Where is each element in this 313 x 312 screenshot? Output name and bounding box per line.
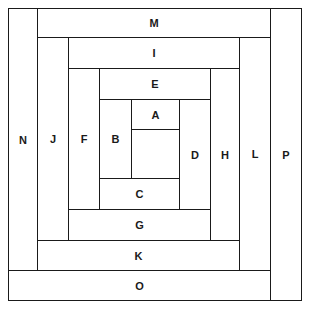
piece-e: E: [99, 68, 211, 100]
piece-f: F: [68, 68, 100, 210]
piece-h: H: [210, 68, 240, 241]
piece-label: K: [135, 250, 143, 262]
piece-g: G: [68, 209, 211, 241]
piece-label: J: [50, 133, 56, 145]
piece-a: A: [131, 99, 180, 130]
center-square: [131, 129, 180, 179]
piece-k: K: [37, 240, 240, 271]
piece-label: D: [191, 149, 199, 161]
piece-label: B: [112, 133, 120, 145]
piece-label: N: [19, 134, 27, 146]
piece-label: H: [221, 149, 229, 161]
piece-b: B: [99, 99, 132, 179]
piece-label: A: [152, 109, 160, 121]
piece-label: F: [81, 133, 88, 145]
piece-l: L: [239, 37, 271, 271]
piece-d: D: [179, 99, 211, 210]
piece-m: M: [37, 8, 271, 38]
piece-p: P: [270, 8, 302, 301]
piece-label: E: [151, 78, 158, 90]
piece-label: O: [135, 280, 144, 292]
piece-c: C: [99, 178, 180, 210]
piece-label: I: [152, 47, 155, 59]
piece-label: G: [135, 219, 144, 231]
piece-n: N: [8, 8, 38, 271]
piece-label: C: [136, 188, 144, 200]
piece-i: I: [68, 37, 240, 69]
piece-j: J: [37, 37, 69, 241]
piece-label: M: [149, 17, 158, 29]
piece-label: P: [282, 149, 289, 161]
piece-label: L: [252, 148, 259, 160]
piece-o: O: [8, 270, 271, 301]
